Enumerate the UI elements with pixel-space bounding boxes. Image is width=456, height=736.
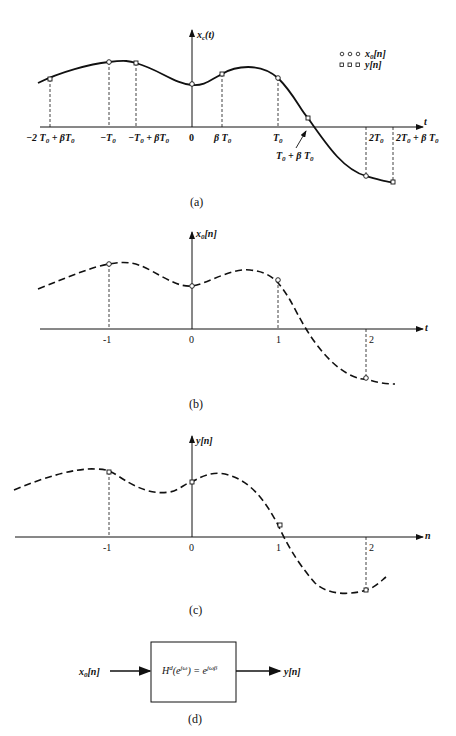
svg-text:1: 1 xyxy=(276,334,281,345)
dashed-envelope xyxy=(14,469,386,593)
legend: x0[n] y[n] xyxy=(340,48,386,70)
tick-labels-a: −2 T0 + βT0 −T0 −T0 + βT0 0 β T0 T0 2T0 … xyxy=(26,132,439,145)
dashed-envelope xyxy=(38,262,395,384)
sample-droplines xyxy=(50,62,393,182)
figure-canvas: xc(t) t − xyxy=(0,0,456,736)
svg-text:1: 1 xyxy=(276,542,281,553)
legend-circle-icon xyxy=(340,52,360,56)
svg-text:-1: -1 xyxy=(103,542,111,553)
sample-droplines xyxy=(109,264,366,378)
legend-square-icon xyxy=(340,63,360,67)
y-axis-label: x0[n] xyxy=(195,228,217,241)
output-label: y[n] xyxy=(283,666,301,677)
x0-samples xyxy=(107,262,369,381)
y-samples xyxy=(107,470,368,592)
panel-d: x0[n] Hd(ejω) = ejωβ y[n] (d) xyxy=(78,642,301,726)
signal-curve xyxy=(38,61,393,182)
panel-c: y[n] n -1 0 1 2 (c) xyxy=(14,435,431,617)
y-samples xyxy=(48,61,395,184)
caption-d: (d) xyxy=(188,712,202,726)
svg-text:0: 0 xyxy=(189,132,194,143)
annotation-arrow xyxy=(296,131,306,148)
svg-text:0: 0 xyxy=(189,542,194,553)
svg-text:T0: T0 xyxy=(273,132,283,145)
panel-b: x0[n] t -1 0 1 2 (b) xyxy=(38,228,429,411)
caption-b: (b) xyxy=(189,397,203,411)
y-axis-label: y[n] xyxy=(195,435,213,446)
svg-text:-1: -1 xyxy=(103,334,111,345)
svg-text:−T0: −T0 xyxy=(100,132,116,145)
panel-a: xc(t) t − xyxy=(26,29,439,209)
svg-text:0: 0 xyxy=(189,334,194,345)
legend-label-y: y[n] xyxy=(364,59,382,70)
tick-labels-b: -1 0 1 2 xyxy=(103,334,374,345)
svg-text:2T0: 2T0 xyxy=(368,132,384,145)
caption-c: (c) xyxy=(189,603,202,617)
annotation-label: T0 + β T0 xyxy=(276,150,314,163)
svg-text:−T0 + βT0: −T0 + βT0 xyxy=(128,132,170,145)
caption-a: (a) xyxy=(190,195,203,209)
svg-text:2: 2 xyxy=(369,542,374,553)
sample-droplines xyxy=(109,472,366,590)
tick-labels-c: -1 0 1 2 xyxy=(103,542,374,553)
x-axis-label: t xyxy=(424,116,428,127)
svg-text:β T0: β T0 xyxy=(213,132,232,145)
x-axis-label: n xyxy=(425,530,431,541)
input-label: x0[n] xyxy=(78,666,100,679)
x0-samples xyxy=(107,60,369,179)
svg-text:2T0 + β T0: 2T0 + β T0 xyxy=(395,132,439,145)
svg-text:−2 T0 + βT0: −2 T0 + βT0 xyxy=(26,132,75,145)
y-axis-label: xc(t) xyxy=(196,29,215,42)
x-axis-label: t xyxy=(425,322,429,333)
svg-text:2: 2 xyxy=(369,334,374,345)
